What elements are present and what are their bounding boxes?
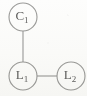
node-c1[interactable]: C1: [9, 3, 37, 31]
node-l2[interactable]: L2: [57, 62, 85, 90]
graph-diagram: C1 L1 L2: [0, 0, 87, 96]
node-l1[interactable]: L1: [9, 62, 37, 90]
graph-canvas: C1 L1 L2: [0, 0, 87, 96]
